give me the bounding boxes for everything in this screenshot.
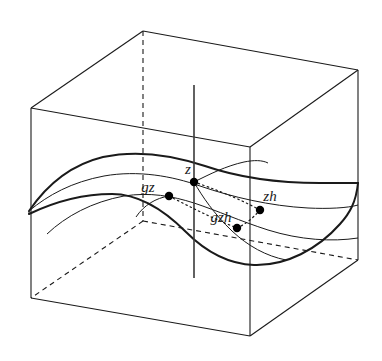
edge-top-back <box>143 31 358 70</box>
point-labels: z gz zh gzh <box>141 161 276 225</box>
edge-top-front-left-to-back-left <box>31 31 143 108</box>
label-zh: zh <box>262 188 276 204</box>
edge-top-front <box>31 108 250 147</box>
geometry-diagram: z gz zh gzh <box>0 0 382 361</box>
edge-bottom-front-right-to-back-right <box>250 260 358 336</box>
label-gzh: gzh <box>211 209 232 225</box>
edge-bottom-back-left-to-front-left <box>31 221 143 298</box>
figure-container: z gz zh gzh <box>0 0 382 361</box>
point-gzh[interactable] <box>233 224 241 232</box>
edge-top-front-right-to-back-right <box>250 70 358 147</box>
point-zh[interactable] <box>256 206 264 214</box>
point-gz[interactable] <box>165 192 173 200</box>
point-z[interactable] <box>190 178 198 186</box>
edge-bottom-front <box>31 298 250 336</box>
surface-grid-line-2 <box>47 194 358 240</box>
label-z: z <box>184 161 191 177</box>
label-gz: gz <box>141 179 155 195</box>
dotted-gzh-to-zh <box>237 210 260 228</box>
